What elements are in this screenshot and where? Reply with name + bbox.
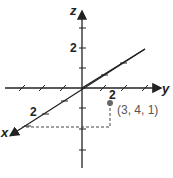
z-tick-label: 2 [70,41,77,55]
point-label: (3, 4, 1) [117,103,158,117]
y-axis-label: y [161,81,170,96]
z-axis-label: z [69,3,77,18]
x-axis-label: x [0,125,9,140]
x-tick-label: 2 [30,105,37,119]
y-tick-label: 2 [109,88,116,102]
coordinate-diagram: z 2 y 2 x 2 (3, 4, 1) [0,0,173,178]
x-axis-back [82,49,145,88]
